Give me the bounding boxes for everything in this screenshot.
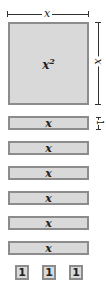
x-tile: x [8,216,89,230]
x-tile-label: x [45,242,52,255]
top-dimension-label: x [42,8,52,19]
unit-tile-label: 1 [72,266,80,279]
x-tile: x [8,166,89,180]
unit-tile: 1 [15,265,29,280]
rect-height-label: 1 [95,120,104,125]
top-dimension-tick-right [88,11,89,17]
unit-tile-label: 1 [18,266,26,279]
x-squared-label: x2 [42,56,55,72]
unit-tile: 1 [42,265,56,280]
x-tile: x [8,116,89,130]
x-squared-tile: x2 [8,22,89,105]
right-dimension-tick-top [95,22,101,23]
right-dimension-tick-bottom [95,104,101,105]
unit-tile: 1 [69,265,83,280]
x-tile-label: x [45,167,52,180]
x-tile-label: x [45,192,52,205]
x-tile-label: x [45,217,52,230]
x-tile-label: x [45,142,52,155]
x-tile: x [8,241,89,255]
x-tile: x [8,191,89,205]
x-tile: x [8,141,89,155]
right-dimension-label: x [93,56,104,66]
unit-tile-label: 1 [45,266,53,279]
top-dimension-tick-left [7,11,8,17]
rect-height-tick-bottom [96,129,101,130]
x-tile-label: x [45,117,52,130]
rect-height-tick-top [96,117,101,118]
